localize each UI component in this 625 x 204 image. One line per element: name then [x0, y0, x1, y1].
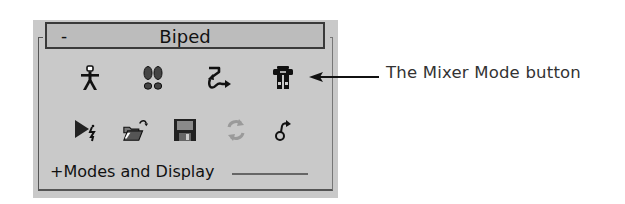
footstep-mode-icon — [141, 65, 165, 91]
figure-mode-icon — [78, 65, 102, 91]
motion-flow-mode-button[interactable] — [205, 64, 233, 92]
convert-icon — [223, 117, 249, 143]
convert-button[interactable] — [222, 116, 250, 144]
load-file-button[interactable] — [122, 116, 150, 144]
figure-mode-button[interactable] — [76, 64, 104, 92]
frame-corner-right — [330, 37, 333, 38]
mixer-mode-button[interactable] — [269, 64, 297, 92]
mixer-mode-icon — [271, 65, 295, 91]
save-file-icon — [172, 117, 198, 143]
move-all-mode-button[interactable] — [269, 116, 297, 144]
biped-playback-icon — [73, 117, 101, 143]
load-file-icon — [122, 117, 150, 143]
save-file-button[interactable] — [171, 116, 199, 144]
callout-arrow-icon — [309, 70, 379, 84]
motion-flow-mode-icon — [205, 65, 233, 91]
biped-playback-button[interactable] — [73, 116, 101, 144]
rollout-divider-line — [232, 173, 308, 175]
footstep-mode-button[interactable] — [139, 64, 167, 92]
callout-label: The Mixer Mode button — [386, 63, 581, 82]
biped-panel: - Biped — [33, 20, 338, 198]
biped-rollout-header[interactable]: - Biped — [45, 22, 325, 49]
frame-corner-left — [38, 37, 43, 38]
rollout-title: Biped — [47, 26, 323, 47]
modes-and-display-rollout[interactable]: +Modes and Display — [50, 162, 215, 181]
move-all-mode-icon — [272, 117, 294, 143]
